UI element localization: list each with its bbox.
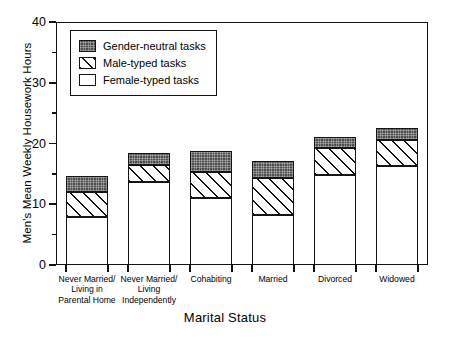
y-axis-tick-line [49,82,56,84]
x-axis-tick [107,265,109,272]
y-axis-tick-line [52,173,56,175]
bar-segment-female-typed [128,182,170,265]
bar-segment-gender-neutral [128,153,170,165]
bar [190,151,232,265]
x-axis-tick-label: Cohabiting [180,274,242,284]
y-axis-tick-label: 10 [32,195,46,213]
legend-item-gender-neutral: Gender-neutral tasks [79,38,206,54]
x-axis-tick [375,265,377,272]
bar-segment-gender-neutral [376,128,418,140]
x-axis-tick [127,265,129,272]
y-axis-tick-line [49,143,56,145]
x-axis-tick-label: Divorced [304,274,366,284]
bar-segment-gender-neutral [314,137,356,148]
bar-segment-gender-neutral [252,161,294,178]
legend-swatch-male-typed-icon [79,57,96,69]
x-axis-tick-label: Never Married/ Living Independently [118,274,180,305]
x-axis-tick [189,265,191,272]
bar-segment-male-typed [314,148,356,175]
bar [376,128,418,265]
y-axis-tick-line [52,234,56,236]
bar-segment-female-typed [376,166,418,265]
y-axis-tick-label: 40 [32,13,46,31]
bar [128,153,170,265]
bar [66,176,108,265]
stacked-bar-chart: Men's Mean Weekly Housework Hours 010203… [0,0,450,340]
x-axis-tick [293,265,295,272]
legend-swatch-gender-neutral-icon [79,40,96,52]
x-axis-tick-label: Widowed [366,274,428,284]
y-axis-tick-label: 30 [32,74,46,92]
x-axis-tick [417,265,419,272]
x-axis-tick [65,265,67,272]
y-axis-tick-label: 20 [32,135,46,153]
bar-segment-male-typed [128,165,170,182]
bar-segment-female-typed [66,217,108,265]
chart-legend: Gender-neutral tasks Male-typed tasks Fe… [70,30,217,96]
bar-segment-male-typed [66,192,108,217]
legend-label-female-typed: Female-typed tasks [103,74,199,87]
x-axis-tick [169,265,171,272]
legend-swatch-female-typed-icon [79,74,96,86]
bar [252,161,294,265]
bar [314,137,356,265]
bar-segment-male-typed [376,140,418,166]
bar-segment-female-typed [252,215,294,265]
legend-item-male-typed: Male-typed tasks [79,55,206,71]
y-axis-tick-line [49,264,56,266]
x-axis-tick [355,265,357,272]
bar-segment-gender-neutral [190,151,232,172]
bar-segment-gender-neutral [66,176,108,192]
x-axis-tick [231,265,233,272]
bar-segment-female-typed [190,198,232,265]
legend-label-male-typed: Male-typed tasks [103,57,186,70]
y-axis-tick-line [49,203,56,205]
y-axis-tick-line [49,21,56,23]
bar-segment-male-typed [190,172,232,198]
legend-item-female-typed: Female-typed tasks [79,72,206,88]
y-axis-tick-line [52,52,56,54]
x-axis-tick-label: Married [242,274,304,284]
y-axis-tick-line [52,112,56,114]
x-axis-title: Marital Status [0,310,450,325]
bar-segment-male-typed [252,178,294,215]
x-axis-tick [251,265,253,272]
y-axis-tick-label: 0 [39,256,46,274]
x-axis-tick-label: Never Married/ Living in Parental Home [56,274,118,305]
bar-segment-female-typed [314,175,356,265]
legend-label-gender-neutral: Gender-neutral tasks [103,40,206,53]
x-axis-tick [313,265,315,272]
